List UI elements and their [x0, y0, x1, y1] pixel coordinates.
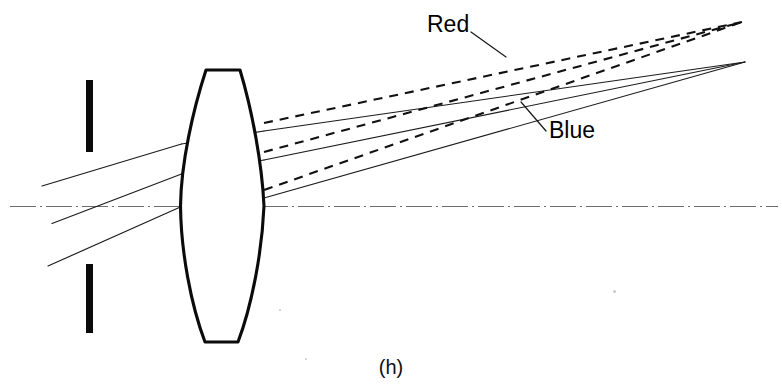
- optical-diagram-figure: Red Blue (h): [0, 0, 782, 391]
- blue-label-leader-line: [521, 102, 546, 131]
- blue-ray-middle: [264, 62, 745, 160]
- blue-ray-label: Blue: [549, 119, 595, 142]
- aperture-stop-upper-bar: [86, 80, 93, 152]
- scan-speck: [279, 309, 281, 311]
- red-ray-middle: [264, 22, 742, 152]
- red-label-leader-line: [471, 32, 506, 57]
- red-ray-group: [264, 22, 742, 190]
- red-ray-lower: [264, 22, 742, 190]
- blue-ray-lower: [264, 62, 745, 198]
- incoming-ray-lower: [48, 207, 182, 267]
- incoming-ray-upper: [42, 144, 182, 186]
- scan-speck: [613, 290, 616, 293]
- aperture-stop-lower-bar: [86, 264, 93, 333]
- diagram-canvas: [0, 0, 782, 391]
- figure-caption: (h): [0, 356, 782, 379]
- blue-ray-group: [264, 62, 745, 198]
- lens-biconvex-outline: [181, 70, 265, 342]
- incoming-ray-middle: [52, 174, 182, 224]
- red-ray-label: Red: [427, 13, 469, 36]
- incoming-ray-group: [42, 144, 182, 266]
